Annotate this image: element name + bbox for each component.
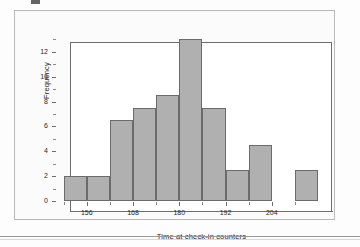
histogram-bar [179, 39, 202, 201]
x-axis-minor-tick [64, 202, 65, 205]
x-axis-tick [179, 202, 180, 206]
y-axis-minor-tick [53, 89, 56, 90]
y-axis-minor-tick [53, 164, 56, 165]
y-axis-tick [52, 151, 56, 152]
histogram-bar [295, 170, 318, 201]
x-axis-tick [133, 202, 134, 206]
x-axis-minor-tick [295, 202, 296, 205]
scan-artifact-mark [31, 0, 40, 4]
y-axis-tick [52, 126, 56, 127]
y-axis-tick-label: 6 [26, 122, 48, 129]
x-axis-minor-tick [110, 202, 111, 205]
x-axis-tick [87, 202, 88, 206]
x-axis-minor-tick [156, 202, 157, 205]
y-axis-minor-tick [53, 114, 56, 115]
y-axis-tick-label: 0 [26, 197, 48, 204]
x-axis-tick-label: 180 [159, 209, 199, 217]
x-axis-minor-tick [249, 202, 250, 205]
x-axis-line [70, 211, 333, 212]
histogram-bar [249, 145, 272, 201]
x-axis-tick-label: 156 [67, 209, 107, 217]
x-axis-tick-label: 192 [206, 209, 246, 217]
y-axis-tick [52, 176, 56, 177]
histogram-bar [64, 176, 87, 201]
x-axis-tick [272, 202, 273, 206]
figure-root: Frequency 024681012 156168180192204 Time… [0, 0, 360, 247]
x-axis-tick-label: 204 [252, 209, 292, 217]
page-divider-rule [0, 236, 360, 237]
y-axis-tick [52, 52, 56, 53]
y-axis-title: Frequency [42, 62, 51, 99]
y-axis-tick [52, 102, 56, 103]
histogram-bar [87, 176, 110, 201]
x-axis-minor-tick [202, 202, 203, 205]
y-axis-tick [52, 77, 56, 78]
x-axis-tick-label: 168 [113, 209, 153, 217]
x-axis-tick [226, 202, 227, 206]
histogram-bars [56, 32, 318, 201]
y-axis-minor-tick [53, 189, 56, 190]
histogram-bar [156, 95, 179, 201]
y-axis-tick-label: 8 [26, 98, 48, 105]
histogram-bar [226, 170, 249, 201]
histogram-bar [110, 120, 133, 201]
y-axis-minor-tick [53, 64, 56, 65]
y-axis-tick [52, 201, 56, 202]
y-axis-minor-tick [53, 39, 56, 40]
y-axis-tick-label: 12 [26, 48, 48, 55]
figure-frame: Frequency 024681012 156168180192204 Time… [14, 10, 335, 220]
histogram-bar [133, 108, 156, 201]
y-axis-tick-label: 2 [26, 172, 48, 179]
y-axis-minor-tick [53, 139, 56, 140]
y-axis-tick-label: 10 [26, 73, 48, 80]
histogram-bar [202, 108, 225, 201]
y-axis-tick-label: 4 [26, 147, 48, 154]
page-divider-rule-secondary [0, 239, 360, 240]
